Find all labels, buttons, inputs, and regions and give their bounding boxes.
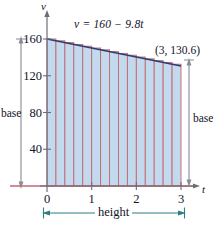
y-tick-label: 80 [18, 107, 42, 120]
y-tick-label: 160 [18, 33, 42, 46]
riemann-rectangle [101, 50, 110, 186]
riemann-rectangle [163, 62, 172, 186]
y-tick-label: 40 [18, 143, 42, 156]
x-tick-label: 3 [169, 193, 193, 206]
riemann-rectangle [56, 41, 65, 186]
riemann-rectangle [65, 43, 74, 186]
riemann-rectangle [136, 57, 145, 186]
base-right-label: base [193, 113, 213, 125]
riemann-rectangle [110, 52, 119, 186]
riemann-rectangle [172, 64, 181, 186]
y-tick-label: 120 [18, 70, 42, 83]
height-label: height [95, 206, 132, 219]
v-axis-label: v [41, 1, 46, 12]
riemann-rectangles-group [47, 39, 181, 186]
x-tick-label: 1 [80, 193, 104, 206]
x-tick-label: 2 [124, 193, 148, 206]
riemann-rectangle [154, 61, 163, 186]
t-axis-arrowhead [193, 183, 200, 188]
riemann-rectangle [92, 48, 101, 186]
riemann-rectangle [83, 46, 92, 186]
x-tick-label: 0 [35, 193, 59, 206]
riemann-rectangle [145, 59, 154, 186]
riemann-rectangle [74, 44, 83, 186]
riemann-rectangle [127, 55, 136, 186]
point-label: (3, 130.6) [155, 45, 200, 57]
equation-label: v = 160 − 9.8t [74, 19, 144, 31]
riemann-rectangle [118, 53, 127, 186]
t-axis-label: t [202, 184, 205, 195]
